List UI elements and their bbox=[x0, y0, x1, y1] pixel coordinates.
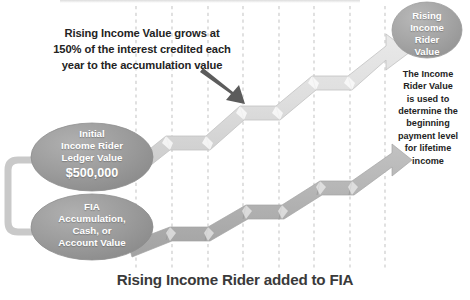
initial-income-rider-ledger-ellipse bbox=[31, 123, 153, 191]
diagram-canvas: Rising Income Value grows at 150% of the… bbox=[0, 0, 470, 300]
fia-account-value-ellipse bbox=[31, 194, 153, 260]
callout-pointer-arrow bbox=[200, 68, 245, 104]
fia-accumulation-arrow bbox=[128, 144, 412, 257]
rising-income-rider-value-ellipse bbox=[392, 2, 462, 58]
diagram-graphics bbox=[0, 0, 470, 300]
rising-income-rider-arrow bbox=[126, 34, 410, 180]
